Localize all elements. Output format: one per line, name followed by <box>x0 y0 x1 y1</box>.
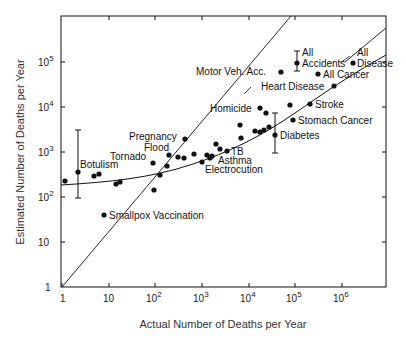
point-all-cancer <box>315 71 320 76</box>
point-smallpox <box>101 212 106 217</box>
x-tick-10: 10 <box>103 293 115 304</box>
point <box>191 151 196 156</box>
label-pregnancy: Pregnancy <box>129 131 177 142</box>
point-all-accidents <box>294 60 299 65</box>
scatter-chart: 1 10 102 103 104 105 106 1 10 102 103 10… <box>0 0 406 341</box>
point <box>91 173 96 178</box>
point <box>237 122 242 127</box>
point-electrocution <box>207 155 212 160</box>
point-motor-veh <box>278 69 283 74</box>
point-stroke <box>307 101 312 106</box>
label-tornado: Tornado <box>110 151 147 162</box>
point <box>151 187 156 192</box>
y-tick-1e4: 104 <box>38 99 54 113</box>
point <box>199 159 204 164</box>
point-homicide <box>257 105 262 110</box>
y-tick-1e5: 105 <box>38 54 54 68</box>
x-tick-1e4: 104 <box>240 290 256 304</box>
point <box>266 124 271 129</box>
point <box>157 172 162 177</box>
point-botulism <box>75 169 80 174</box>
label-stomach-cancer: Stomach Cancer <box>298 115 373 126</box>
point-flood <box>166 152 171 157</box>
y-tick-10: 10 <box>38 237 50 248</box>
x-tick-1: 1 <box>60 293 66 304</box>
point <box>213 141 218 146</box>
point <box>261 127 266 132</box>
point <box>62 178 67 183</box>
label-heart-disease: Heart Disease <box>261 81 325 92</box>
label-all-accidents-2: Accidents <box>302 58 345 69</box>
point <box>217 146 222 151</box>
point-diabetes <box>272 132 277 137</box>
point-tb <box>224 148 229 153</box>
x-axis-ticks <box>62 16 342 287</box>
y-tick-labels: 1 10 102 103 104 105 <box>38 54 54 293</box>
y-tick-1e2: 102 <box>38 189 54 203</box>
label-smallpox: Smallpox Vaccination <box>109 210 204 221</box>
label-electrocution: Electrocution <box>205 164 263 175</box>
point-stomach-cancer <box>290 117 295 122</box>
x-tick-1e3: 103 <box>193 290 209 304</box>
label-stroke: Stroke <box>315 99 344 110</box>
point <box>117 179 122 184</box>
point-tornado <box>150 160 155 165</box>
y-tick-1e3: 103 <box>38 144 54 158</box>
x-axis-title: Actual Number of Deaths per Year <box>140 318 307 330</box>
label-all-disease-1: All <box>357 47 368 58</box>
point <box>263 110 268 115</box>
point-labels: Botulism Tornado Flood Pregnancy Smallpo… <box>80 47 394 221</box>
y-tick-1: 1 <box>45 282 51 293</box>
label-diabetes: Diabetes <box>280 130 319 141</box>
point <box>287 102 292 107</box>
x-tick-labels: 1 10 102 103 104 105 106 <box>60 290 349 304</box>
identity-line <box>62 16 291 287</box>
label-motor-veh: Motor Veh. Acc. <box>196 66 266 77</box>
label-all-cancer: All Cancer <box>323 69 370 80</box>
x-tick-1e5: 105 <box>286 290 302 304</box>
point-pregnancy <box>182 136 187 141</box>
point-all-disease <box>350 60 355 65</box>
x-tick-1e6: 106 <box>333 290 349 304</box>
point <box>96 171 101 176</box>
point <box>164 163 169 168</box>
error-bars <box>75 51 300 198</box>
y-axis-title: Estimated Number of Deaths per Year <box>14 59 26 245</box>
point <box>252 128 257 133</box>
point <box>238 135 243 140</box>
point <box>175 154 180 159</box>
label-all-disease-2: Disease <box>357 58 394 69</box>
label-all-accidents-1: All <box>302 47 313 58</box>
x-tick-1e2: 102 <box>146 290 162 304</box>
label-homicide: Homicide <box>210 103 252 114</box>
label-flood: Flood <box>144 142 169 153</box>
point <box>181 155 186 160</box>
point-heart-disease <box>331 83 336 88</box>
